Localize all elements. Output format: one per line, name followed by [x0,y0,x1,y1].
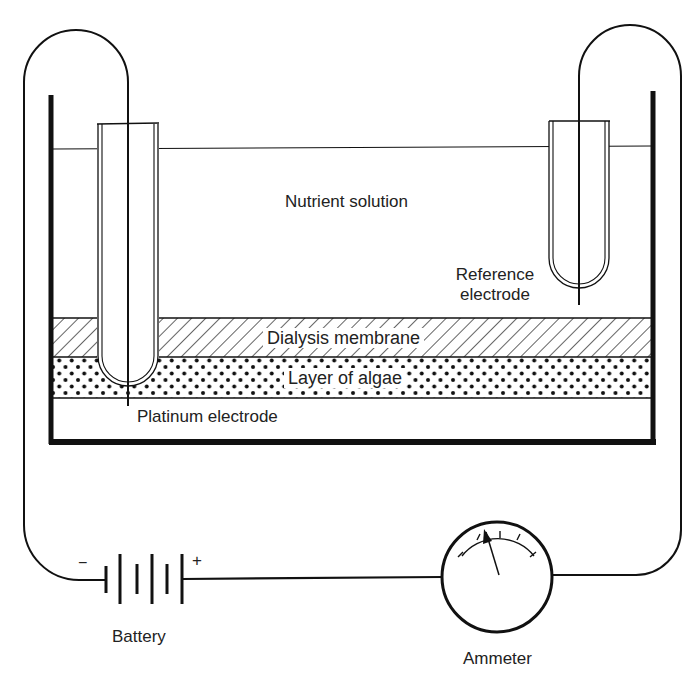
label-dialysis-membrane: Dialysis membrane [263,328,424,348]
ammeter-symbol [442,522,552,632]
label-ammeter: Ammeter [463,649,532,669]
label-nutrient-solution: Nutrient solution [285,192,408,212]
label-reference-electrode-line1: Reference [445,265,545,285]
algae-electrode-diagram: Nutrient solution Reference electrode Di… [0,0,698,681]
label-battery-plus: + [192,551,202,571]
label-battery: Battery [112,627,166,647]
label-battery-minus: − [78,553,87,573]
label-reference-electrode-line2: electrode [445,285,545,305]
label-reference-electrode: Reference electrode [445,265,545,305]
label-layer-of-algae: Layer of algae [284,368,406,388]
right-electrode-wire [553,25,681,575]
label-platinum-electrode: Platinum electrode [137,407,278,427]
battery-symbol [106,554,442,604]
